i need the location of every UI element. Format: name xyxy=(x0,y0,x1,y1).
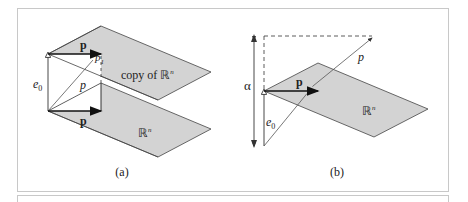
panel-b: p p α e0 ℝn (b) xyxy=(244,34,428,179)
plane-rn xyxy=(264,63,428,137)
label-p-top: p xyxy=(80,38,87,52)
diagram: p p p p1 e0 copy of ℝn ℝn (a) p p α e0 ℝ… xyxy=(0,0,468,202)
caption-a: (a) xyxy=(115,165,128,179)
caption-b: (b) xyxy=(330,165,344,179)
label-p-bottom: p xyxy=(80,114,87,128)
label-e0-b: e0 xyxy=(266,115,275,131)
label-p-diag-b: p xyxy=(357,50,364,64)
label-upper-plane: copy of ℝn xyxy=(121,68,174,82)
label-e0-a: e0 xyxy=(33,77,42,93)
label-p-diag: p xyxy=(79,78,86,92)
panel-a: p p p p1 e0 copy of ℝn ℝn (a) xyxy=(33,26,211,179)
label-alpha: α xyxy=(244,78,251,93)
label-p-b: p xyxy=(296,75,303,89)
